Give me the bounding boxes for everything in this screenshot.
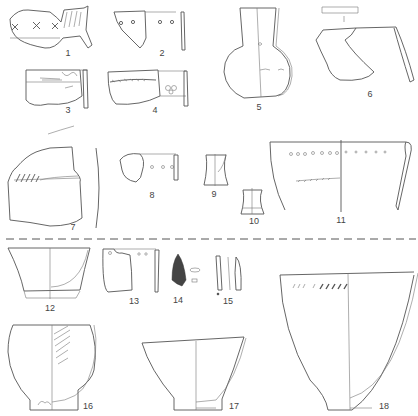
figure-plate: 1 2 3 4 5 6 7 8 9 10 11 12 13 14 15 16 1… <box>0 0 418 416</box>
vessel-17 <box>142 337 246 410</box>
figure-number: 1 <box>65 49 70 58</box>
sherd-2 <box>114 11 185 50</box>
vessel-11 <box>270 140 411 212</box>
figure-number: 6 <box>367 90 372 99</box>
vessel-12 <box>8 248 90 299</box>
figure-number: 13 <box>129 297 139 306</box>
sherd-8 <box>120 154 178 182</box>
sherd-4 <box>108 70 188 106</box>
figure-number: 14 <box>173 296 183 305</box>
figure-number: 2 <box>159 49 164 58</box>
sherd-7 <box>8 126 99 228</box>
vessel-9 <box>204 154 228 186</box>
figure-number: 17 <box>229 402 239 411</box>
vessel-10 <box>241 188 264 214</box>
object-15 <box>216 256 241 295</box>
figure-number: 16 <box>83 402 93 411</box>
vessel-5 <box>224 8 292 98</box>
figure-number: 4 <box>152 106 157 115</box>
sherd-1 <box>10 6 92 48</box>
figure-number: 10 <box>249 217 259 226</box>
vessel-18 <box>280 272 418 410</box>
sherd-3 <box>26 70 88 108</box>
sherd-6 <box>316 7 414 82</box>
figure-number: 15 <box>223 297 233 306</box>
figure-number: 12 <box>45 304 55 313</box>
figure-number: 8 <box>149 191 154 200</box>
sherd-13 <box>103 249 159 292</box>
figure-number: 9 <box>211 190 216 199</box>
object-14 <box>172 254 200 286</box>
figure-number: 7 <box>70 223 75 232</box>
figure-number: 5 <box>256 103 261 112</box>
vessel-16 <box>8 325 96 410</box>
figure-number: 11 <box>336 216 345 225</box>
drawings <box>0 0 418 416</box>
figure-number: 3 <box>65 106 70 115</box>
figure-number: 18 <box>379 402 389 411</box>
